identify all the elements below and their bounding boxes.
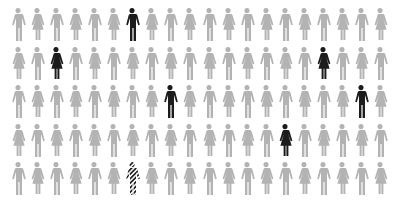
woman-figure (142, 162, 160, 196)
woman-icon (371, 8, 389, 42)
woman-icon (85, 124, 103, 158)
man-icon (47, 162, 65, 196)
man-figure (180, 124, 198, 158)
man-figure (47, 8, 65, 42)
man-icon (295, 47, 313, 81)
woman-figure (257, 8, 275, 42)
man-icon (295, 124, 313, 158)
woman-icon (352, 124, 370, 158)
man-figure (142, 124, 160, 158)
woman-icon (371, 85, 389, 119)
man-icon (219, 47, 237, 81)
woman-figure (28, 162, 46, 196)
man-icon (238, 162, 256, 196)
woman-figure (371, 85, 389, 119)
woman-icon (314, 47, 332, 81)
woman-figure (85, 124, 103, 158)
woman-icon (66, 8, 84, 42)
man-icon (352, 162, 370, 196)
man-figure (238, 162, 256, 196)
man-figure (276, 8, 294, 42)
man-icon (161, 85, 179, 119)
man-figure (9, 162, 27, 196)
man-icon (352, 8, 370, 42)
woman-figure (28, 85, 46, 119)
man-icon (85, 8, 103, 42)
man-figure (123, 85, 141, 119)
man-icon (276, 85, 294, 119)
woman-figure (85, 47, 103, 81)
woman-figure (371, 8, 389, 42)
man-icon (9, 8, 27, 42)
woman-icon (104, 85, 122, 119)
woman-figure (257, 85, 275, 119)
man-icon (352, 85, 370, 119)
man-icon (333, 124, 351, 158)
man-icon (314, 85, 332, 119)
man-figure (66, 124, 84, 158)
woman-icon (28, 8, 46, 42)
man-figure (333, 47, 351, 81)
woman-icon (200, 47, 218, 81)
woman-figure (161, 124, 179, 158)
woman-figure (66, 85, 84, 119)
man-figure (276, 85, 294, 119)
woman-figure (219, 162, 237, 196)
woman-figure (9, 124, 27, 158)
man-icon (257, 47, 275, 81)
woman-icon (9, 47, 27, 81)
man-figure (161, 8, 179, 42)
woman-icon (200, 124, 218, 158)
woman-figure (295, 8, 313, 42)
man-figure (219, 47, 237, 81)
woman-figure (180, 8, 198, 42)
woman-figure-highlighted (276, 124, 294, 158)
woman-icon (314, 124, 332, 158)
man-figure-highlighted (123, 162, 141, 196)
woman-figure (333, 8, 351, 42)
man-figure (9, 8, 27, 42)
woman-icon (47, 47, 65, 81)
woman-figure-highlighted (47, 47, 65, 81)
man-figure (142, 47, 160, 81)
woman-icon (333, 8, 351, 42)
woman-icon (219, 85, 237, 119)
man-icon (28, 47, 46, 81)
woman-icon (28, 162, 46, 196)
man-icon (142, 47, 160, 81)
woman-icon (276, 47, 294, 81)
man-icon (219, 124, 237, 158)
man-figure (314, 162, 332, 196)
woman-icon (180, 85, 198, 119)
woman-icon (295, 8, 313, 42)
man-figure (238, 85, 256, 119)
man-icon (123, 162, 141, 196)
woman-icon (257, 8, 275, 42)
woman-icon (238, 47, 256, 81)
man-figure-highlighted (161, 85, 179, 119)
man-icon (47, 85, 65, 119)
man-icon (200, 162, 218, 196)
woman-figure (142, 85, 160, 119)
woman-icon (123, 47, 141, 81)
man-icon (238, 8, 256, 42)
man-icon (200, 85, 218, 119)
woman-icon (142, 8, 160, 42)
woman-figure (123, 124, 141, 158)
woman-figure (352, 47, 370, 81)
woman-figure (123, 47, 141, 81)
man-figure-highlighted (352, 85, 370, 119)
woman-icon (123, 124, 141, 158)
man-icon (371, 124, 389, 158)
man-icon (104, 47, 122, 81)
woman-figure (333, 85, 351, 119)
woman-figure (66, 162, 84, 196)
woman-figure (219, 85, 237, 119)
man-icon (276, 162, 294, 196)
man-icon (9, 162, 27, 196)
man-figure (9, 85, 27, 119)
man-icon (85, 162, 103, 196)
man-icon (9, 85, 27, 119)
man-icon (66, 47, 84, 81)
woman-figure (200, 124, 218, 158)
